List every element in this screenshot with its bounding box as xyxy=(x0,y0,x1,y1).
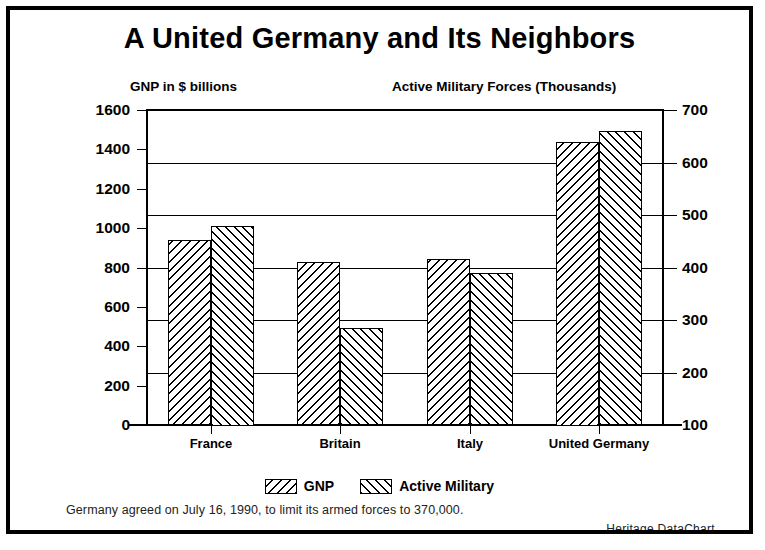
left-axis-tick-label: 800 xyxy=(72,259,130,277)
right-axis-tick-label: 500 xyxy=(682,206,708,224)
category-label: Britain xyxy=(319,436,360,451)
left-axis-tick-label: 1400 xyxy=(72,140,130,158)
right-axis-tick-label: 200 xyxy=(682,364,708,382)
left-axis-tick-label: 600 xyxy=(72,298,130,316)
left-axis-tick xyxy=(137,228,146,229)
right-axis-tick-label: 600 xyxy=(682,154,708,172)
right-axis-tick-label: 100 xyxy=(682,416,708,434)
right-axis-tick-label: 300 xyxy=(682,311,708,329)
legend: GNP Active Military xyxy=(10,478,749,494)
source-attribution: Heritage DataChart xyxy=(606,522,715,534)
chart-frame: A United Germany and Its Neighbors GNP i… xyxy=(6,6,753,534)
left-axis-tick xyxy=(137,346,146,347)
left-axis-tick xyxy=(137,110,146,111)
left-axis-tick-label: 1200 xyxy=(72,180,130,198)
right-axis-tick xyxy=(664,268,677,269)
left-axis-tick xyxy=(137,307,146,308)
left-axis-tick-label: 1000 xyxy=(72,219,130,237)
category-tick xyxy=(599,425,600,434)
chart-title: A United Germany and Its Neighbors xyxy=(10,22,749,55)
category-tick xyxy=(470,425,471,434)
category-tick xyxy=(211,425,212,434)
left-axis-tick xyxy=(137,425,146,426)
right-axis-tick xyxy=(664,163,677,164)
legend-label-active-military: Active Military xyxy=(399,478,494,494)
category-label: Italy xyxy=(457,436,483,451)
legend-label-gnp: GNP xyxy=(304,478,334,494)
right-axis-tick xyxy=(664,320,677,321)
left-axis-tick xyxy=(137,149,146,150)
bar-gnp xyxy=(297,262,340,425)
legend-swatch-gnp-icon xyxy=(265,479,297,494)
bar-active-military xyxy=(340,328,383,425)
category-tick xyxy=(340,425,341,434)
bar-gnp xyxy=(427,259,470,425)
bar-gnp xyxy=(168,240,211,425)
category-label: France xyxy=(190,436,233,451)
right-axis-tick xyxy=(664,215,677,216)
left-axis-caption: GNP in $ billions xyxy=(130,79,237,94)
category-label: United Germany xyxy=(549,436,649,451)
legend-swatch-active-military-icon xyxy=(360,479,392,494)
right-axis-tick xyxy=(664,425,677,426)
left-axis-tick xyxy=(137,386,146,387)
left-axis-tick xyxy=(137,268,146,269)
right-axis-caption: Active Military Forces (Thousands) xyxy=(392,79,616,94)
left-axis-tick-label: 400 xyxy=(72,337,130,355)
bar-gnp xyxy=(556,142,599,426)
legend-item-gnp[interactable]: GNP xyxy=(265,478,334,494)
right-axis-tick-label: 400 xyxy=(682,259,708,277)
legend-item-active-military[interactable]: Active Military xyxy=(360,478,494,494)
bar-active-military xyxy=(211,226,254,426)
right-axis-tick xyxy=(664,110,677,111)
left-axis-tick-label: 0 xyxy=(72,416,130,434)
bar-active-military xyxy=(599,131,642,425)
footnote: Germany agreed on July 16, 1990, to limi… xyxy=(66,503,463,517)
right-axis-tick-label: 700 xyxy=(682,101,708,119)
bar-active-military xyxy=(470,273,513,425)
right-axis-tick xyxy=(664,373,677,374)
left-axis-tick-label: 1600 xyxy=(72,101,130,119)
left-axis-tick-label: 200 xyxy=(72,377,130,395)
left-axis-tick xyxy=(137,189,146,190)
